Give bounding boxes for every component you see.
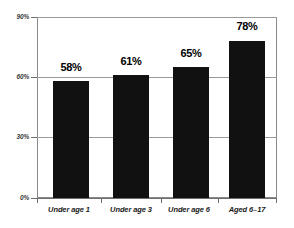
xtick-mark-1 — [101, 198, 102, 203]
bar-under-age-1 — [53, 81, 89, 198]
xtick-mark-4 — [276, 198, 277, 203]
xtick-label-under-age-1: Under age 1 — [36, 205, 102, 214]
xtick-mark-2 — [161, 198, 162, 203]
bar-value-under-age-1: 58% — [41, 61, 101, 73]
bar-under-age-6 — [173, 67, 209, 198]
xtick-label-under-age-3: Under age 3 — [98, 205, 164, 214]
xtick-mark-0 — [37, 198, 38, 203]
bar-value-aged-6-17: 78% — [217, 20, 277, 32]
xtick-label-aged-6-17: Aged 6–17 — [217, 205, 277, 214]
bar-value-under-age-6: 65% — [161, 47, 221, 59]
bar-chart: 90% 60% 30% 0% 58% 61% 65% 78% Under age… — [0, 0, 294, 228]
xtick-label-under-age-6: Under age 6 — [158, 205, 220, 214]
xtick-mark-3 — [218, 198, 219, 203]
bar-value-under-age-3: 61% — [101, 55, 161, 67]
bar-under-age-3 — [113, 75, 149, 198]
bar-aged-6-17 — [229, 41, 265, 198]
x-axis-line — [37, 198, 277, 199]
bars-layer: 58% 61% 65% 78% — [0, 0, 294, 228]
